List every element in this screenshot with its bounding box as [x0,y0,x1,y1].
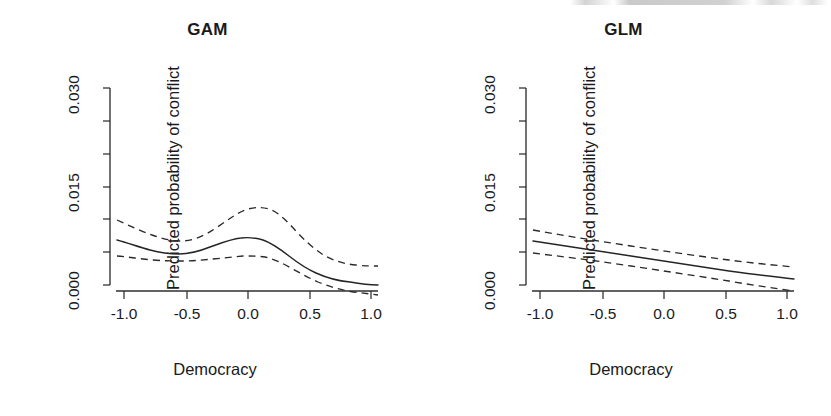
fitted-curve-glm [533,241,794,279]
ci-lower-curve-glm [533,253,794,291]
ci-upper-curve-gam [117,208,378,267]
x-axis-ticks-glm [540,291,787,299]
plot-area-gam [0,0,415,416]
y-axis-ticks-glm [519,88,526,285]
y-axis-ticks-gam [103,88,110,285]
figure-canvas: GAM Predicted probability of conflict De… [0,0,831,416]
panel-gam: GAM Predicted probability of conflict De… [0,0,415,416]
plot-area-glm [416,0,831,416]
x-axis-ticks-gam [124,291,371,299]
panel-glm: GLM Predicted probability of conflict De… [416,0,831,416]
